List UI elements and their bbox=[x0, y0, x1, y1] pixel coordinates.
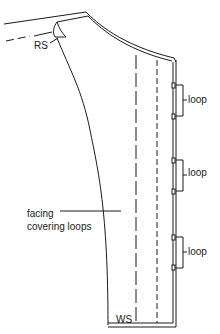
loop-3-bottom bbox=[172, 265, 175, 270]
shoulder-dashed-line bbox=[6, 36, 30, 41]
loop-label-1: loop bbox=[188, 95, 207, 105]
garment-drawing bbox=[0, 0, 220, 334]
covering-loops-label: covering loops bbox=[27, 222, 91, 232]
rs-label: RS bbox=[34, 41, 48, 51]
shoulder-line-inner bbox=[57, 16, 88, 22]
side-seam bbox=[57, 38, 108, 325]
loop-1-bracket bbox=[176, 85, 187, 116]
garment-diagram: RS WS facing covering loops loop loop lo… bbox=[0, 0, 220, 334]
ws-label: WS bbox=[116, 315, 132, 325]
loop-2-top bbox=[172, 158, 175, 163]
loop-2-bracket bbox=[176, 160, 187, 191]
loop-3-bracket bbox=[176, 237, 187, 268]
loop-1-bottom bbox=[172, 114, 175, 119]
loop-2-bottom bbox=[172, 189, 175, 194]
shoulder-dashed-line-2 bbox=[34, 32, 52, 36]
loop-label-2: loop bbox=[188, 168, 207, 178]
loop-3-top bbox=[172, 235, 175, 240]
shoulder-line-outer bbox=[4, 12, 86, 24]
facing-label: facing bbox=[27, 209, 54, 219]
loop-label-3: loop bbox=[188, 247, 207, 257]
loop-1-top bbox=[172, 83, 175, 88]
rs-fold-flap bbox=[54, 22, 66, 37]
neckline-outer bbox=[86, 12, 176, 62]
